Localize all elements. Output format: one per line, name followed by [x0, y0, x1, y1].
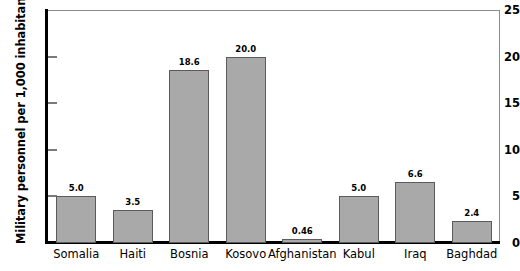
- bar: [452, 221, 492, 243]
- bar-group: 2.4: [444, 10, 501, 243]
- x-label-iraq: Iraq: [404, 247, 426, 261]
- x-label-bosnia: Bosnia: [170, 247, 208, 261]
- bar-value-label: 5.0: [69, 183, 84, 193]
- bar-group: 18.6: [161, 10, 218, 243]
- y-axis-title: Military personnel per 1,000 inhabitants: [14, 0, 28, 244]
- x-label-afghanistan: Afghanistan: [268, 247, 336, 261]
- bar-value-label: 6.6: [408, 169, 423, 179]
- x-label-kabul: Kabul: [343, 247, 375, 261]
- bar-group: 5.0: [48, 10, 105, 243]
- x-label-baghdad: Baghdad: [446, 247, 497, 261]
- x-label-somalia: Somalia: [53, 247, 99, 261]
- bar-value-label: 5.0: [351, 183, 366, 193]
- bar: [169, 70, 209, 243]
- bar-value-label: 3.5: [125, 197, 140, 207]
- bar-group: 5.0: [331, 10, 388, 243]
- bar-value-label: 20.0: [235, 44, 256, 54]
- bar: [282, 239, 322, 243]
- bar-group: 6.6: [387, 10, 444, 243]
- bar-group: 3.5: [105, 10, 162, 243]
- bar: [113, 210, 153, 243]
- bar: [226, 57, 266, 243]
- bar-group: 20.0: [218, 10, 275, 243]
- bar-chart: Military personnel per 1,000 inhabitants…: [0, 0, 520, 271]
- bar-group: 0.46: [274, 10, 331, 243]
- x-label-kosovo: Kosovo: [225, 247, 266, 261]
- bars-layer: 5.03.518.620.00.465.06.62.4: [48, 10, 500, 243]
- x-label-haiti: Haiti: [119, 247, 146, 261]
- bar-value-label: 18.6: [179, 57, 200, 67]
- bar: [395, 182, 435, 244]
- bar: [339, 196, 379, 243]
- bar-value-label: 2.4: [464, 208, 479, 218]
- bar-value-label: 0.46: [292, 226, 313, 236]
- bar: [56, 196, 96, 243]
- x-axis-labels: SomaliaHaitiBosniaKosovoAfghanistanKabul…: [48, 247, 500, 267]
